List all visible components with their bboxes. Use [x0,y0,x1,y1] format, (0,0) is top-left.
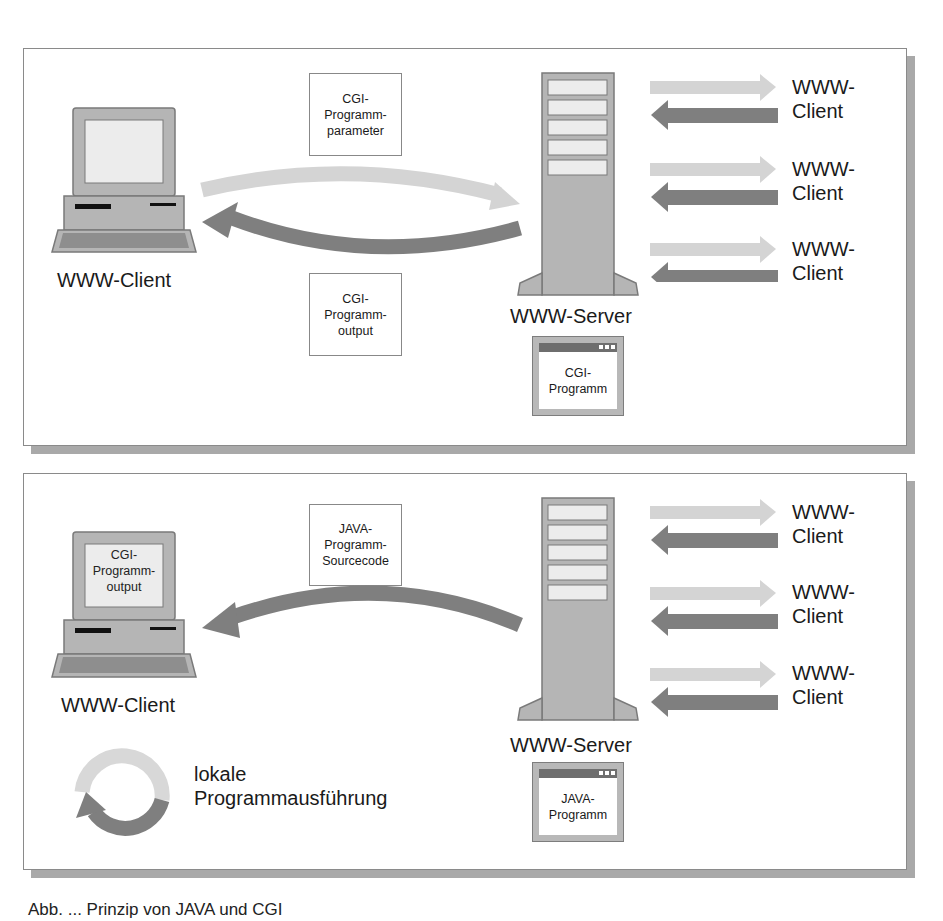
window-titlebar [539,343,617,352]
response-arrow-icon [232,218,520,247]
request-response-arrows [180,160,540,260]
program-window-line: CGI- [565,365,591,381]
transfer-note-line: JAVA- [339,521,373,537]
remote-client-label: WWW- Client [792,75,855,123]
cgi-program-window: CGI- Programm [532,336,624,416]
transfer-note-line: Programm- [324,537,387,553]
response-note-line: Programm- [324,307,387,323]
server-label: WWW-Server [510,304,632,328]
remote-client-label: WWW- Client [792,237,855,285]
response-note-line: CGI- [342,291,368,307]
client-label: WWW-Client [61,693,175,717]
local-execution-cycle-icon [68,732,178,842]
remote-client-label: WWW- Client [792,157,855,205]
remote-client-label: WWW- Client [792,580,855,628]
remote-client-label: WWW- Client [792,661,855,709]
window-titlebar [539,769,617,778]
transfer-arrow-icon [180,570,540,650]
server-tower-icon [515,495,640,725]
local-execution-label: lokale Programmausführung [194,762,387,810]
server-tower-icon [515,70,640,300]
response-note-box: CGI- Programm- output [309,273,402,356]
client-label: WWW-Client [57,268,171,292]
request-note-box: CGI- Programm- parameter [309,73,402,156]
request-note-line: parameter [327,123,384,139]
java-program-window: JAVA- Programm [532,762,624,842]
program-window-line: JAVA- [561,791,595,807]
window-controls-icon [599,345,615,350]
request-note-line: CGI- [342,91,368,107]
server-label: WWW-Server [510,733,632,757]
program-window-line: Programm [549,381,607,397]
response-note-line: output [338,323,373,339]
program-window-line: Programm [549,807,607,823]
transfer-note-line: Sourcecode [322,553,389,569]
request-arrow-icon [202,174,500,195]
client-computer-icon [48,100,200,260]
figure-caption: Abb. ... Prinzip von JAVA und CGI [28,899,283,921]
request-note-line: Programm- [324,107,387,123]
remote-client-label: WWW- Client [792,500,855,548]
remote-client-arrows [648,72,780,282]
remote-client-arrows [648,497,780,722]
window-controls-icon [599,771,615,776]
client-screen-text: CGI- Programm- output [85,547,163,595]
